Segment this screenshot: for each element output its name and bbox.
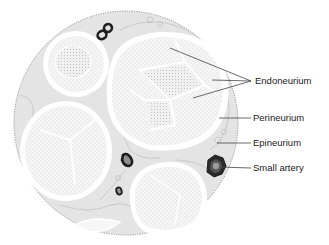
label-perineurium: Perineurium	[253, 113, 304, 123]
fascicle-bottom-left	[20, 101, 112, 201]
fascicle-bottom-right	[130, 162, 207, 235]
blood-vessel-middle	[122, 154, 132, 166]
label-small-artery: Small artery	[253, 163, 304, 173]
label-epineurium: Epineurium	[253, 138, 301, 148]
fascicle-top-left	[43, 31, 109, 97]
label-endoneurium: Endoneurium	[255, 76, 312, 86]
fascicle-large-upper-right	[107, 32, 229, 151]
